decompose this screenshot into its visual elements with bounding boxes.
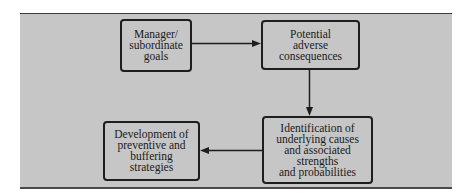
diagram-canvas: Manager/ subordinate goals Potential adv… bbox=[0, 0, 465, 196]
arrow-identification-to-development bbox=[0, 0, 465, 196]
